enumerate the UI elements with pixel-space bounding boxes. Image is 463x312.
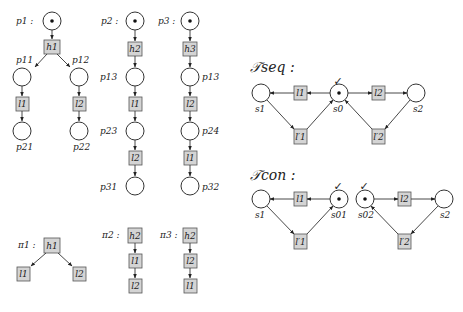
transition-label: l1	[296, 88, 305, 98]
process-rho3: p3 : h3 p13 l2 p24 l1 p32	[158, 12, 219, 195]
place-p13	[181, 68, 199, 86]
petri-net-diagram: p1 : h1 p11 p12 l1 l2 p21 p22 p2 : h2 p1	[0, 0, 463, 312]
transition-label: l2	[131, 281, 140, 291]
place-label-p21: p21	[16, 142, 33, 152]
place-p21	[13, 122, 31, 140]
place-p12	[70, 68, 88, 86]
transition-label: l1	[296, 194, 305, 204]
transition-label: h2	[184, 231, 196, 241]
place-label-s2: s2	[413, 104, 424, 114]
arc	[57, 54, 70, 67]
token	[50, 19, 54, 23]
place-label-s0: s0	[333, 104, 344, 114]
process-rho1: p1 : h1 p11 p12 l1 l2 p21 p22	[13, 12, 90, 152]
tcon-title: 𝒯con :	[250, 167, 295, 183]
net-tcon: 𝒯con : ✓ ✓ s1 s01 s02 s2 l1 l2 l′1 l′2	[250, 167, 453, 249]
transition-label: h2	[129, 231, 141, 241]
place-p32	[181, 177, 199, 195]
place-s2	[407, 84, 425, 102]
place-label-p32: p32	[202, 182, 219, 192]
token	[133, 19, 137, 23]
token	[188, 19, 192, 23]
path-pi2: π2 : h2 l1 l2	[101, 228, 142, 293]
place-p31	[126, 177, 144, 195]
token	[337, 197, 341, 201]
place-s1	[252, 190, 270, 208]
transition-label: l′2	[373, 132, 384, 142]
arc	[371, 206, 398, 234]
arc	[31, 253, 46, 266]
place-label-s1: s1	[255, 210, 265, 220]
transition-label: l1	[186, 153, 195, 163]
arc	[345, 100, 372, 129]
arc	[307, 206, 333, 234]
place-p24	[181, 122, 199, 140]
pi1-label: π1 :	[17, 240, 36, 250]
place-label-p13: p13	[202, 72, 219, 82]
rho3-label: p3 :	[158, 16, 175, 26]
place-p11	[13, 68, 31, 86]
path-pi1: π1 : h1 l1 l2	[17, 238, 86, 281]
transition-label: l′1	[295, 132, 306, 142]
transition-label: l2	[131, 153, 140, 163]
arc	[267, 100, 294, 129]
transition-label: l2	[75, 269, 84, 279]
token	[337, 91, 341, 95]
place-p22	[70, 122, 88, 140]
place-label-s2: s2	[440, 210, 451, 220]
place-label-p12: p12	[72, 55, 89, 65]
place-label-p22: p22	[73, 142, 90, 152]
process-rho2: p2 : h2 p13 l1 p23 l2 p31	[100, 12, 144, 195]
arc	[58, 253, 72, 266]
transition-label: l1	[18, 99, 27, 109]
transition-label: l′2	[399, 237, 410, 247]
pi2-label: π2 :	[101, 230, 120, 240]
transition-label: l2	[186, 256, 195, 266]
arc	[385, 100, 410, 129]
net-tseq: 𝒯seq : ✓ s1 s0 s2 l1 l2 l′1 l′2	[250, 59, 425, 144]
place-label-s1: s1	[255, 104, 265, 114]
arc	[307, 100, 333, 129]
transition-label: l2	[374, 88, 383, 98]
arc	[35, 54, 47, 67]
transition-label: h1	[46, 42, 58, 52]
place-label-p13: p13	[100, 72, 117, 82]
path-pi3: π3 : h2 l2 l1	[159, 228, 197, 293]
transition-label: h2	[129, 44, 141, 54]
token	[363, 197, 367, 201]
place-label-p24: p24	[202, 126, 219, 136]
place-s1	[252, 84, 270, 102]
transition-label: l2	[400, 194, 409, 204]
arc	[411, 206, 438, 234]
place-label-p11: p11	[16, 55, 33, 65]
place-label-s02: s02	[358, 210, 374, 220]
pi3-label: π3 :	[159, 230, 178, 240]
rho2-label: p2 :	[101, 16, 118, 26]
transition-label: l1	[131, 256, 140, 266]
arc	[267, 206, 294, 234]
transition-label: h1	[46, 241, 58, 251]
transition-label: l1	[186, 281, 195, 291]
place-label-s01: s01	[331, 210, 347, 220]
transition-label: l2	[75, 99, 84, 109]
transition-label: l2	[186, 99, 195, 109]
transition-label: l1	[131, 99, 140, 109]
transition-label: h3	[184, 44, 196, 54]
transition-label: l1	[19, 269, 28, 279]
place-p23	[126, 122, 144, 140]
transition-label: l′1	[295, 237, 306, 247]
place-label-p31: p31	[100, 182, 117, 192]
rho1-label: p1 :	[16, 16, 33, 26]
place-p13	[126, 68, 144, 86]
place-label-p23: p23	[100, 126, 117, 136]
tseq-title: 𝒯seq :	[250, 59, 295, 75]
place-s2	[435, 190, 453, 208]
